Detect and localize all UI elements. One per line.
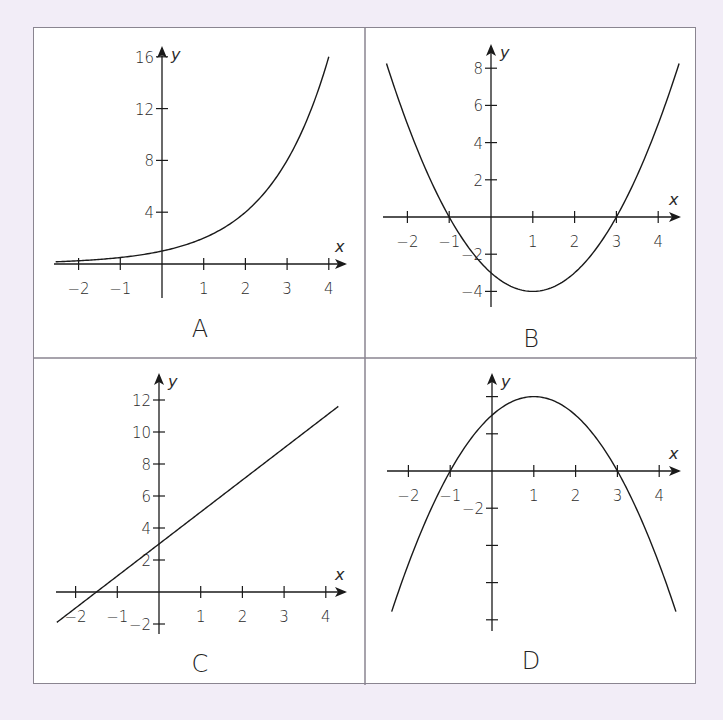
function-curve [387, 64, 680, 292]
x-tick-label: −2 [397, 487, 419, 505]
x-tick-label: −1 [106, 608, 128, 626]
x-tick-label: 2 [571, 487, 581, 505]
x-tick-label: 3 [279, 608, 289, 626]
x-tick-label: −1 [438, 233, 460, 251]
x-tick-label: −2 [65, 608, 87, 626]
x-axis-label: x [334, 237, 345, 256]
panel-c: −2−1123412108642−2xyC [56, 372, 345, 678]
y-axis-label: y [500, 372, 511, 391]
panel-a: −2−11234481216xyA [54, 45, 345, 343]
y-tick-label: 12 [132, 392, 151, 410]
x-tick-label: 1 [528, 233, 538, 251]
panel-label: D [522, 647, 540, 675]
y-tick-label: 8 [141, 456, 151, 474]
x-tick-label: 1 [199, 280, 209, 298]
x-tick-label: 3 [612, 233, 622, 251]
y-tick-label: 12 [135, 101, 154, 119]
x-tick-label: 4 [324, 280, 334, 298]
y-tick-label: 4 [473, 135, 483, 153]
y-axis-label: y [499, 43, 510, 62]
y-tick-label: 8 [144, 152, 154, 170]
x-tick-label: 1 [529, 487, 539, 505]
y-tick-label: 4 [144, 204, 154, 222]
panel-label: C [192, 650, 209, 678]
panel-label: A [192, 315, 208, 343]
x-tick-label: 4 [653, 233, 663, 251]
y-tick-label: −4 [461, 283, 483, 301]
panel-b: −2−112348642−2−4xyB [383, 43, 679, 353]
x-tick-label: −1 [109, 280, 131, 298]
y-tick-label: 2 [141, 552, 151, 570]
y-tick-label: −2 [462, 500, 484, 518]
x-axis-label: x [668, 444, 679, 463]
x-tick-label: 1 [196, 608, 206, 626]
x-tick-label: 4 [321, 608, 331, 626]
panel-label: B [523, 325, 539, 353]
y-tick-label: 6 [473, 97, 483, 115]
y-tick-label: 10 [132, 424, 151, 442]
y-tick-label: 2 [473, 172, 483, 190]
x-axis-label: x [334, 565, 345, 584]
y-tick-label: 6 [141, 488, 151, 506]
y-axis-label: y [170, 45, 181, 64]
x-tick-label: 3 [613, 487, 623, 505]
function-curve [57, 406, 338, 622]
x-tick-label: −2 [396, 233, 418, 251]
function-graphs-figure: −2−11234481216xyA −2−112348642−2−4xyB −2… [33, 27, 696, 684]
x-tick-label: 3 [282, 280, 292, 298]
x-tick-label: 4 [654, 487, 664, 505]
x-tick-label: 2 [238, 608, 248, 626]
y-tick-label: 4 [141, 520, 151, 538]
x-axis-label: x [668, 190, 679, 209]
y-axis-label: y [167, 372, 178, 391]
x-tick-label: −2 [68, 280, 90, 298]
y-tick-label: −2 [129, 616, 151, 634]
x-tick-label: 2 [570, 233, 580, 251]
function-curve [56, 57, 329, 262]
x-tick-label: 2 [241, 280, 251, 298]
y-tick-label: 8 [473, 60, 483, 78]
y-tick-label: 16 [135, 49, 154, 67]
x-tick-label: −1 [439, 487, 461, 505]
plots-canvas: −2−11234481216xyA −2−112348642−2−4xyB −2… [34, 28, 697, 685]
panel-d: −2−11234−2xyD [387, 372, 679, 675]
